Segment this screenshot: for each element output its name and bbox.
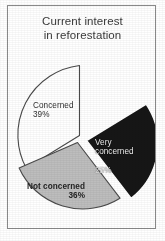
slice-value-not-concerned: 36% xyxy=(27,191,85,201)
slice-label-concerned-text: Concerned xyxy=(33,101,74,110)
slice-label-not-concerned: Not concerned 36% xyxy=(27,172,85,210)
slice-label-not-concerned-text: Not concerned xyxy=(27,182,85,191)
slice-label-very-concerned-line2: concerned xyxy=(95,147,134,157)
slice-label-concerned: Concerned 39% xyxy=(33,91,74,129)
pie-chart-figure: Current interest in reforestation Concer… xyxy=(0,0,165,241)
slice-label-very-concerned: Very concerned 25% xyxy=(95,128,134,186)
slice-value-very-concerned: 25% xyxy=(95,166,134,176)
chart-title: Current interest in reforestation xyxy=(16,15,149,42)
slice-value-concerned: 39% xyxy=(33,110,74,120)
slice-label-very-concerned-line1: Very xyxy=(95,138,112,147)
